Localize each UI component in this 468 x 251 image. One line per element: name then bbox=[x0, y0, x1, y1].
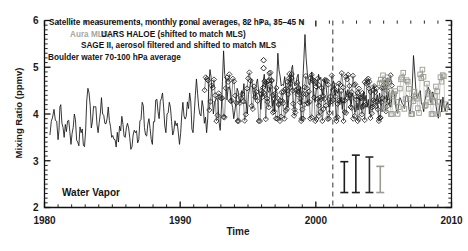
x-tick-label: 1980 bbox=[33, 215, 56, 226]
x-tick-label: 2000 bbox=[305, 215, 328, 226]
water-vapor-timeseries-chart: 1980199020002010 23456 Satellite measure… bbox=[0, 0, 468, 251]
y-tick-label: 5 bbox=[33, 62, 39, 73]
x-tick-label: 2010 bbox=[440, 215, 463, 226]
y-tick-label: 3 bbox=[33, 156, 39, 167]
x-axis-title: Time bbox=[226, 226, 250, 237]
header-line-1: Satellite measurements, monthly zonal av… bbox=[49, 18, 304, 27]
chart-figure: 1980199020002010 23456 Satellite measure… bbox=[0, 0, 468, 251]
y-tick-label: 4 bbox=[33, 109, 39, 120]
header-line-3: SAGE II, aerosol filtered and shifted to… bbox=[81, 41, 277, 50]
header-line-4: Boulder water 70-100 hPa average bbox=[48, 53, 181, 62]
x-tick-label: 1990 bbox=[169, 215, 192, 226]
water-vapor-label: Water Vapor bbox=[62, 187, 120, 198]
y-axis-title: Mixing Ratio (ppmv) bbox=[13, 68, 24, 159]
y-tick-label: 6 bbox=[33, 15, 39, 26]
y-tick-label: 2 bbox=[33, 202, 39, 213]
header-line-2-haloe: UARS HALOE (shifted to match MLS) bbox=[101, 30, 246, 39]
